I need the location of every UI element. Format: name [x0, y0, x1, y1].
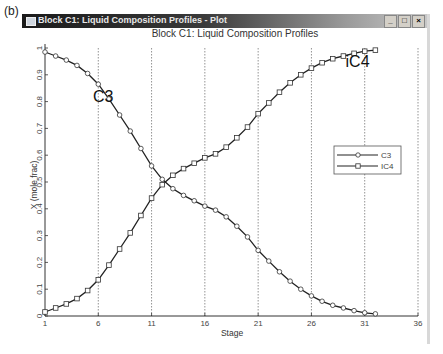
data-point-c3 [149, 164, 154, 169]
data-point-ic4 [213, 152, 218, 157]
legend: C3IC4 [334, 146, 401, 174]
data-point-c3 [341, 306, 346, 311]
annotation-c3: C3 [93, 88, 114, 105]
y-tick-label: 0.2 [35, 256, 44, 268]
legend-label-ic4: IC4 [381, 162, 394, 171]
x-tick-label: 36 [414, 319, 423, 328]
chart: Block C1: Liquid Composition Profiles 16… [0, 0, 443, 354]
data-point-c3 [330, 303, 335, 308]
y-axis-label: X (mole frac) [29, 161, 39, 210]
y-tick-label: 0.8 [35, 95, 44, 107]
data-point-ic4 [139, 213, 144, 218]
data-point-ic4 [96, 278, 101, 283]
data-point-c3 [256, 248, 261, 253]
data-point-ic4 [85, 288, 90, 293]
data-point-ic4 [245, 125, 250, 130]
data-point-ic4 [288, 81, 293, 86]
data-point-c3 [75, 63, 80, 68]
x-tick-label: 16 [200, 319, 209, 328]
data-point-c3 [267, 259, 272, 264]
data-point-ic4 [117, 247, 122, 252]
data-point-c3 [320, 299, 325, 304]
data-point-c3 [362, 310, 367, 315]
data-point-ic4 [320, 60, 325, 65]
data-point-ic4 [256, 111, 261, 116]
data-point-c3 [235, 224, 240, 229]
data-point-c3 [53, 54, 58, 59]
y-tick-label: 0.6 [35, 149, 44, 161]
legend-label-c3: C3 [381, 151, 392, 160]
data-point-ic4 [64, 302, 69, 307]
y-tick-label: 0.3 [35, 229, 44, 241]
data-point-c3 [352, 308, 357, 313]
chart-title: Block C1: Liquid Composition Profiles [152, 28, 319, 39]
y-tick-label: 0.9 [35, 69, 44, 81]
data-point-ic4 [171, 173, 176, 178]
legend-marker-c3 [356, 153, 360, 157]
x-tick-label: 11 [147, 319, 156, 328]
data-point-ic4 [267, 101, 272, 106]
data-point-c3 [373, 312, 378, 317]
legend-marker-ic4 [356, 164, 360, 168]
x-tick-label: 1 [43, 319, 48, 328]
data-point-c3 [203, 204, 208, 209]
x-tick-label: 21 [254, 319, 263, 328]
data-point-ic4 [203, 156, 208, 161]
data-point-c3 [213, 208, 218, 213]
data-point-ic4 [192, 161, 197, 166]
data-point-c3 [298, 287, 303, 292]
x-tick-label: 31 [360, 319, 369, 328]
data-point-ic4 [149, 196, 154, 201]
data-point-ic4 [224, 145, 229, 150]
x-axis-label: Stage [221, 328, 243, 338]
data-point-ic4 [107, 263, 112, 268]
data-point-c3 [43, 50, 48, 55]
x-tick-label: 6 [96, 319, 101, 328]
data-point-ic4 [235, 135, 240, 140]
data-point-c3 [64, 58, 69, 63]
data-point-c3 [117, 113, 122, 118]
data-point-ic4 [53, 306, 58, 311]
data-point-ic4 [277, 90, 282, 95]
data-point-c3 [192, 198, 197, 203]
data-point-ic4 [298, 73, 303, 78]
y-tick-label: 1 [35, 45, 44, 50]
data-point-c3 [277, 269, 282, 274]
x-tick-label: 26 [307, 319, 316, 328]
data-point-c3 [160, 177, 165, 182]
y-tick-label: 0.7 [35, 122, 44, 134]
data-point-c3 [128, 129, 133, 134]
data-point-c3 [85, 71, 90, 76]
data-point-ic4 [181, 166, 186, 171]
data-point-ic4 [43, 310, 48, 315]
data-point-ic4 [128, 231, 133, 236]
data-point-c3 [171, 186, 176, 191]
annotation-ic4: iC4 [346, 53, 370, 70]
data-point-ic4 [373, 48, 378, 53]
data-point-c3 [139, 146, 144, 151]
data-point-ic4 [330, 56, 335, 61]
data-point-c3 [181, 193, 186, 198]
data-point-c3 [224, 215, 229, 220]
y-tick-label: 0.1 [35, 283, 44, 295]
data-point-ic4 [75, 296, 80, 301]
data-point-ic4 [160, 182, 165, 187]
data-point-c3 [288, 279, 293, 284]
data-point-c3 [245, 235, 250, 240]
data-point-c3 [309, 294, 314, 299]
data-point-c3 [96, 82, 101, 87]
data-point-ic4 [309, 66, 314, 71]
